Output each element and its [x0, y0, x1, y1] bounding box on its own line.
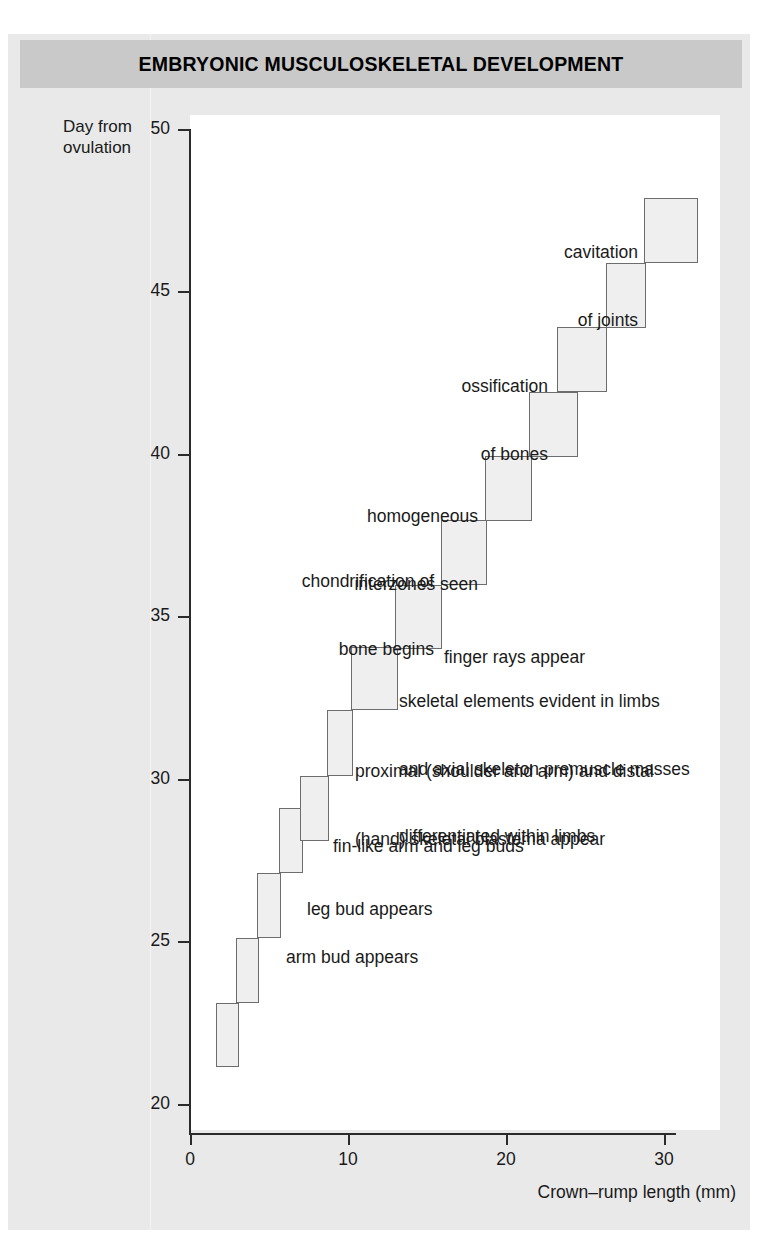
x-axis-line: [189, 1133, 676, 1135]
figure-title-bar: EMBRYONIC MUSCULOSKELETAL DEVELOPMENT: [20, 40, 742, 88]
annotation-line: arm bud appears: [286, 946, 546, 969]
y-tick-30: [178, 779, 189, 781]
x-tick-20: [506, 1134, 508, 1145]
annotation-arm-bud: arm bud appears: [286, 901, 546, 1014]
y-ticklabel-35: 35: [124, 605, 170, 626]
y-ticklabel-40: 40: [124, 443, 170, 464]
annotation-line: skeletal elements evident in limbs: [399, 690, 729, 713]
x-tick-10: [348, 1134, 350, 1145]
y-ticklabel-50: 50: [124, 118, 170, 139]
y-tick-45: [178, 291, 189, 293]
y-ticklabel-45: 45: [124, 280, 170, 301]
margin-rule: [150, 34, 151, 1230]
annotation-chondrification: chondrification of bone begins: [180, 525, 434, 705]
step-box-5: [300, 776, 329, 841]
annotation-line: chondrification of: [180, 570, 434, 593]
annotation-line: proximal (shoulder and arm) and distal: [355, 760, 705, 783]
annotation-line: of joints: [400, 309, 638, 332]
page-title: EMBRYONIC MUSCULOSKELETAL DEVELOPMENT: [139, 53, 624, 76]
x-ticklabel-10: 10: [325, 1149, 371, 1170]
x-ticklabel-30: 30: [641, 1149, 687, 1170]
annotation-line: cavitation: [400, 241, 638, 264]
annotation-line: ossification: [310, 375, 548, 398]
step-box-3: [257, 873, 281, 938]
x-ticklabel-20: 20: [483, 1149, 529, 1170]
x-ticklabel-0: 0: [167, 1149, 213, 1170]
step-box-2: [236, 938, 259, 1003]
x-axis-title: Crown–rump length (mm): [538, 1182, 736, 1203]
y-ticklabel-20: 20: [124, 1093, 170, 1114]
y-axis-title-line2: ovulation: [63, 137, 173, 158]
y-ticklabel-25: 25: [124, 930, 170, 951]
y-ticklabel-30: 30: [124, 768, 170, 789]
step-box-1: [216, 1003, 239, 1067]
y-tick-20: [178, 1104, 189, 1106]
annotation-line: bone begins: [180, 638, 434, 661]
step-box-6: [327, 710, 353, 776]
step-box-14: [644, 198, 698, 263]
y-tick-50: [178, 129, 189, 131]
x-tick-30: [664, 1134, 666, 1145]
figure-page: EMBRYONIC MUSCULOSKELETAL DEVELOPMENT Da…: [0, 0, 758, 1254]
y-tick-25: [178, 941, 189, 943]
x-tick-0: [190, 1134, 192, 1145]
y-tick-40: [178, 454, 189, 456]
